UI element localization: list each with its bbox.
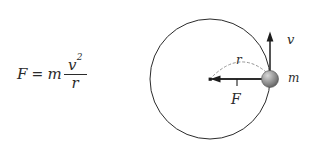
formula-equals-sign: =: [32, 66, 44, 82]
formula-numerator-exponent: 2: [77, 52, 83, 62]
formula-fraction: v2 r: [64, 57, 87, 91]
formula-denominator-r: r: [68, 75, 83, 91]
velocity-label-v: v: [287, 33, 294, 46]
circular-motion-diagram: [140, 0, 310, 162]
formula-lhs-F: F: [17, 65, 28, 83]
formula-mass-m: m: [48, 65, 62, 83]
formula-numerator: v2: [64, 57, 87, 74]
force-label-F: F: [231, 92, 241, 106]
centripetal-force-formula: F = m v2 r: [17, 57, 87, 91]
radius-label-r: r: [236, 54, 242, 66]
velocity-arrowhead: [267, 32, 274, 42]
formula-numerator-v: v: [68, 56, 77, 74]
mass-label-m: m: [288, 72, 299, 84]
figure-canvas: F = m v2 r: [0, 0, 310, 162]
mass-sphere: [262, 71, 279, 88]
